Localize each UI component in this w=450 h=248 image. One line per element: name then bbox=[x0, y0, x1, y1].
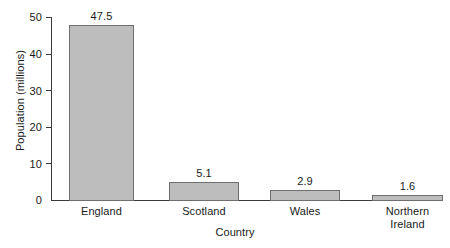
y-axis-title: Population (millions) bbox=[15, 21, 26, 181]
y-tick-label-10-wrap: 10 bbox=[0, 159, 42, 170]
y-tick-label-20-wrap: 20 bbox=[0, 122, 42, 133]
y-tick-label-50-wrap: 50 bbox=[0, 12, 42, 23]
bar-value-northern-ireland: 1.6 bbox=[372, 181, 443, 192]
x-axis-title: Country bbox=[195, 226, 275, 238]
y-axis-line bbox=[51, 17, 52, 201]
category-label-northern-ireland-line-2: Ireland bbox=[372, 218, 443, 231]
category-label-wales: Wales bbox=[270, 205, 340, 218]
y-tick-label-0: 0 bbox=[8, 195, 42, 206]
category-label-scotland-line-1: Scotland bbox=[169, 205, 239, 218]
bar-wales[interactable] bbox=[270, 190, 340, 201]
y-tick-label-30-wrap: 30 bbox=[0, 86, 42, 97]
bar-value-england: 47.5 bbox=[69, 11, 134, 22]
bar-value-wales: 2.9 bbox=[270, 176, 340, 187]
y-tick-label-10: 10 bbox=[8, 159, 42, 170]
bar-value-scotland: 5.1 bbox=[169, 168, 239, 179]
category-label-england: England bbox=[69, 205, 134, 218]
category-label-england-line-1: England bbox=[69, 205, 134, 218]
y-tick-label-20: 20 bbox=[8, 122, 42, 133]
category-label-northern-ireland-line-1: Northern bbox=[372, 205, 443, 218]
y-tick-label-40: 40 bbox=[8, 49, 42, 60]
y-tick-label-30: 30 bbox=[8, 86, 42, 97]
bar-scotland[interactable] bbox=[169, 182, 239, 201]
y-tick-label-50: 50 bbox=[8, 12, 42, 23]
bar-england[interactable] bbox=[69, 25, 134, 201]
y-tick-label-40-wrap: 40 bbox=[0, 49, 42, 60]
category-label-wales-line-1: Wales bbox=[270, 205, 340, 218]
category-label-northern-ireland: Northern Ireland bbox=[372, 205, 443, 230]
y-tick-label-0-wrap: 0 bbox=[0, 195, 42, 206]
bar-northern-ireland[interactable] bbox=[372, 195, 443, 201]
category-label-scotland: Scotland bbox=[169, 205, 239, 218]
bar-chart: Population (millions) 50 40 30 20 10 0 4… bbox=[0, 0, 450, 248]
